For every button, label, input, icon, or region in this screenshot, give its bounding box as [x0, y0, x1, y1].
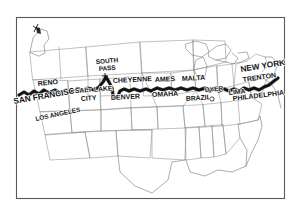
label-omaha: OMAHA	[152, 90, 179, 98]
label-malta: MALTA	[182, 74, 206, 82]
map-canvas: SAN FRANCISCO LOS ANGELES RENO SALT LAKE…	[0, 0, 299, 209]
label-dyer: DYER	[205, 85, 224, 93]
label-ames: AMES	[155, 75, 176, 83]
label-salt-lake-city-line2: CITY	[81, 94, 97, 102]
map-figure: SAN FRANCISCO LOS ANGELES RENO SALT LAKE…	[0, 0, 299, 209]
map-frame	[17, 18, 285, 199]
